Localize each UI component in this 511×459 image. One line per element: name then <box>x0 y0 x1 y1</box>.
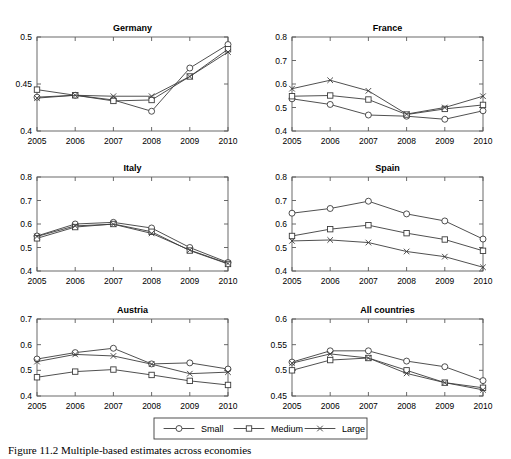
panel-title: Germany <box>113 23 152 33</box>
circle-marker <box>404 211 410 217</box>
x-tick-label: 2009 <box>435 136 454 146</box>
square-marker <box>328 226 333 231</box>
series-line-medium <box>37 224 228 264</box>
square-marker <box>34 87 39 92</box>
series-line-small <box>37 45 228 112</box>
series-line-large <box>292 80 483 114</box>
figure-panel-grid: Germany0.40.450.520052006200720082009201… <box>0 0 511 459</box>
square-marker <box>149 372 154 377</box>
figure-caption-container: Figure 11.2 Multiple-based estimates acr… <box>0 446 511 459</box>
circle-marker <box>480 378 486 384</box>
series-line-medium <box>37 49 228 101</box>
x-tick-label: 2007 <box>359 276 378 286</box>
x-tick-label: 2009 <box>180 136 199 146</box>
y-tick-label: 0.4 <box>20 126 32 136</box>
plot-box <box>37 319 228 396</box>
circle-marker <box>225 366 231 372</box>
y-tick-label: 0.4 <box>20 391 32 401</box>
y-tick-label: 0.6 <box>20 219 32 229</box>
x-tick-label: 2007 <box>104 401 123 411</box>
x-tick-label: 2008 <box>142 136 161 146</box>
y-tick-label: 0.5 <box>275 103 287 113</box>
x-tick-label: 2010 <box>219 276 238 286</box>
legend-label: Large <box>342 424 365 434</box>
panel-title: All countries <box>360 305 415 315</box>
x-tick-label: 2009 <box>435 276 454 286</box>
x-tick-label: 2006 <box>321 136 340 146</box>
square-marker <box>73 369 78 374</box>
square-marker <box>366 222 371 227</box>
x-tick-label: 2007 <box>359 401 378 411</box>
y-tick-label: 0.7 <box>275 196 287 206</box>
x-tick-label: 2010 <box>474 401 493 411</box>
circle-marker <box>34 94 40 100</box>
square-marker <box>289 368 294 373</box>
y-tick-label: 0.4 <box>275 126 287 136</box>
panel-title: Spain <box>375 163 400 173</box>
circle-marker <box>187 360 193 366</box>
square-marker <box>225 382 230 387</box>
circle-marker <box>327 101 333 107</box>
square-marker <box>111 98 116 103</box>
y-tick-label: 0.8 <box>20 172 32 182</box>
square-marker <box>289 233 294 238</box>
y-tick-label: 0.8 <box>275 172 287 182</box>
series-line-medium <box>37 370 228 385</box>
x-tick-label: 2010 <box>219 401 238 411</box>
x-tick-label: 2006 <box>66 276 85 286</box>
chart-panel-spain: Spain0.40.50.60.70.820052006200720082009… <box>275 163 493 286</box>
y-tick-label: 0.6 <box>20 340 32 350</box>
square-marker <box>187 378 192 383</box>
x-tick-label: 2005 <box>283 401 302 411</box>
square-marker <box>366 97 371 102</box>
square-marker <box>289 94 294 99</box>
x-tick-label: 2005 <box>283 276 302 286</box>
x-tick-label: 2010 <box>219 136 238 146</box>
circle-marker <box>442 116 448 122</box>
circle-marker <box>480 108 486 114</box>
y-tick-label: 0.5 <box>20 32 32 42</box>
chart-panel-italy: Italy0.40.50.60.70.820052006200720082009… <box>20 163 238 286</box>
x-tick-label: 2006 <box>321 401 340 411</box>
figure-caption: Figure 11.2 Multiple-based estimates acr… <box>8 446 251 456</box>
square-marker <box>480 248 485 253</box>
chart-panel-austria: Austria0.40.50.60.7200520062007200820092… <box>20 305 238 411</box>
y-tick-label: 0.5 <box>275 365 287 375</box>
circle-marker <box>480 236 486 242</box>
x-tick-label: 2005 <box>28 276 47 286</box>
x-tick-label: 2010 <box>474 276 493 286</box>
y-tick-label: 0.6 <box>275 79 287 89</box>
legend-label: Medium <box>271 424 303 434</box>
y-tick-label: 0.5 <box>20 365 32 375</box>
x-tick-label: 2007 <box>104 136 123 146</box>
legend-label: Small <box>201 424 224 434</box>
x-tick-label: 2007 <box>104 276 123 286</box>
y-tick-label: 0.55 <box>270 340 287 350</box>
panel-title: Austria <box>117 305 149 315</box>
square-marker <box>442 237 447 242</box>
panel-title: Italy <box>123 163 141 173</box>
y-tick-label: 0.7 <box>275 56 287 66</box>
x-tick-label: 2010 <box>474 136 493 146</box>
square-marker <box>225 47 230 52</box>
x-tick-label: 2008 <box>142 276 161 286</box>
y-tick-label: 0.6 <box>275 314 287 324</box>
chart-panel-france: France0.40.50.60.70.82005200620072008200… <box>275 23 493 146</box>
circle-marker <box>365 348 371 354</box>
y-tick-label: 0.5 <box>20 243 32 253</box>
circle-marker <box>176 426 182 432</box>
x-tick-label: 2006 <box>66 401 85 411</box>
panel-title: France <box>373 23 403 33</box>
square-marker <box>328 93 333 98</box>
circle-marker <box>327 348 333 354</box>
plot-box <box>292 177 483 271</box>
y-tick-label: 0.6 <box>275 219 287 229</box>
circle-marker <box>187 65 193 71</box>
plot-box <box>37 37 228 131</box>
y-tick-label: 0.45 <box>15 79 32 89</box>
series-line-large <box>37 52 228 98</box>
series-line-small <box>292 99 483 119</box>
square-marker <box>404 230 409 235</box>
y-tick-label: 0.7 <box>20 314 32 324</box>
circle-marker <box>289 210 295 216</box>
